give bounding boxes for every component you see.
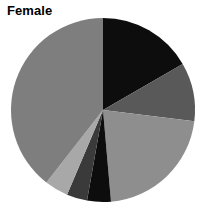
pie-chart-svg: [0, 0, 203, 217]
chart-title: Female: [7, 3, 52, 18]
pie-chart-plot-area: [0, 0, 203, 217]
pie-chart-figure: Female: [0, 0, 203, 217]
pie-slice: [103, 110, 194, 202]
pie-slice-group: [11, 18, 195, 202]
